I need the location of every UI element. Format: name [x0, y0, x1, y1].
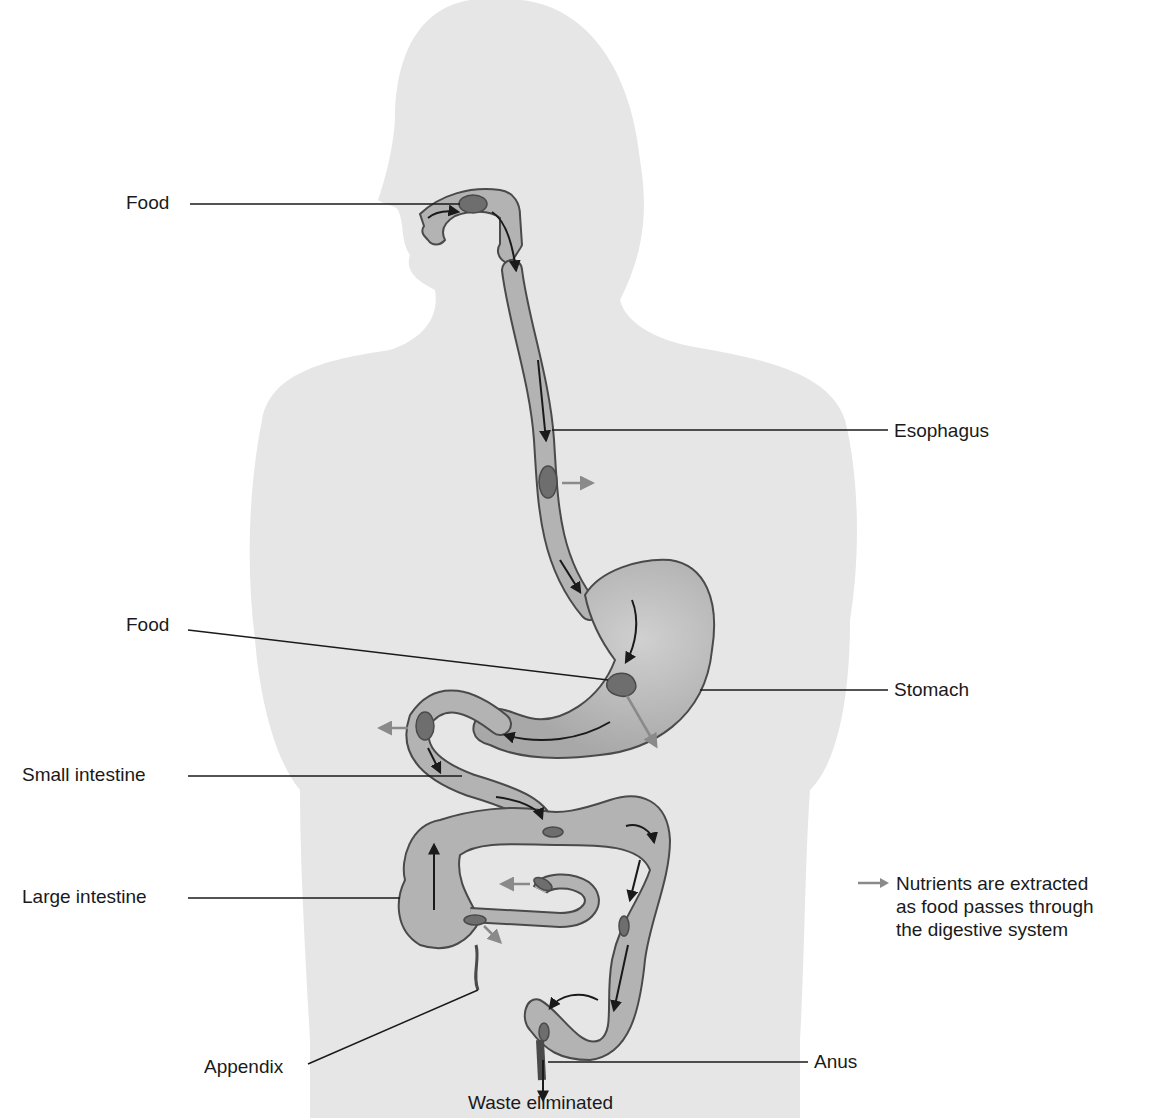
legend-line-1: Nutrients are extracted [896, 872, 1094, 895]
gray-arrow-icon [856, 872, 890, 894]
label-large-intestine: Large intestine [22, 886, 147, 908]
legend: Nutrients are extracted as food passes t… [856, 872, 1094, 941]
label-anus: Anus [814, 1051, 857, 1073]
legend-line-2: as food passes through [896, 895, 1094, 918]
label-food-stomach: Food [126, 614, 169, 636]
label-appendix: Appendix [204, 1056, 283, 1078]
legend-line-3: the digestive system [896, 918, 1094, 941]
label-food-mouth: Food [126, 192, 169, 214]
label-esophagus: Esophagus [894, 420, 989, 442]
label-small-intestine: Small intestine [22, 764, 146, 786]
label-waste-eliminated: Waste eliminated [468, 1092, 613, 1114]
digestive-diagram [0, 0, 1152, 1118]
label-stomach: Stomach [894, 679, 969, 701]
legend-text: Nutrients are extracted as food passes t… [896, 872, 1094, 941]
